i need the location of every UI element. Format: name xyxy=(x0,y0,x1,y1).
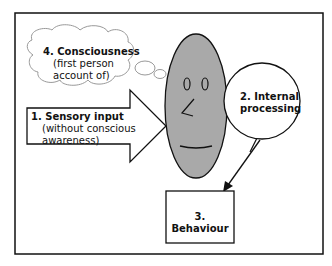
face xyxy=(165,34,227,178)
internal-processing-title1: 2. Internal xyxy=(240,91,300,103)
consciousness-line1: (first person xyxy=(43,58,140,70)
behaviour-label: 3. Behaviour xyxy=(166,211,234,235)
consciousness-label: 4. Consciousness (first person account o… xyxy=(43,46,140,82)
processing-to-behaviour-arrow xyxy=(223,140,260,192)
sensory-input-line1: (without conscious xyxy=(31,123,136,135)
sensory-input-title: 1. Sensory input xyxy=(31,111,136,123)
sensory-input-line2: awareness) xyxy=(31,135,136,147)
sensory-input-label: 1. Sensory input (without conscious awar… xyxy=(31,111,136,147)
internal-processing-label: 2. Internal processing xyxy=(240,91,300,115)
internal-processing-title2: processing xyxy=(240,103,300,115)
face-ellipse xyxy=(165,34,227,178)
thought-bubble-small xyxy=(154,70,166,79)
consciousness-line2: account of) xyxy=(43,70,140,82)
consciousness-title: 4. Consciousness xyxy=(43,46,140,58)
